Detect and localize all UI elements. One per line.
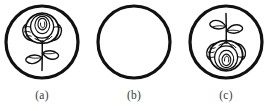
panel-b — [92, 0, 176, 86]
panel-label-a: (a) — [0, 88, 84, 102]
rose-art-group-c — [207, 14, 246, 72]
panel-label-b: (b) — [92, 88, 176, 102]
empty-circle-drawing — [92, 0, 176, 86]
panel-c — [184, 0, 268, 86]
panel-label-c: (c) — [184, 88, 268, 102]
panel-a — [0, 0, 84, 86]
medallion-circle-b — [98, 6, 170, 78]
figure-labels-row: (a) (b) (c) — [0, 88, 268, 111]
rose-art-group-a — [23, 13, 62, 71]
rose-upright-drawing — [0, 0, 84, 86]
rose-inverted-drawing — [184, 0, 268, 86]
figure-panels-row — [0, 0, 268, 88]
